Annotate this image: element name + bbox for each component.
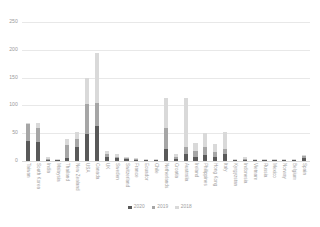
x-label-cell: Italy	[220, 163, 230, 205]
bar-segment-2020	[272, 160, 276, 161]
bar-segment-2018	[85, 78, 89, 105]
x-axis-label: Malaysia	[55, 163, 60, 182]
x-axis-label: Kyrgyzstan	[233, 163, 238, 186]
bar-segment-2020	[233, 160, 237, 161]
x-label-cell: Chile	[151, 163, 161, 205]
bar-segment-2019	[36, 128, 40, 142]
bar-column	[279, 22, 289, 161]
legend-label: 2019	[157, 205, 168, 210]
bar-segment-2020	[302, 158, 306, 161]
bar-stack	[184, 98, 188, 161]
legend-label: 2018	[181, 205, 192, 210]
x-label-cell: Ecuador	[141, 163, 151, 205]
stacked-column-chart: 050100150200250 TaiwanSouth KoreaIndiaMa…	[0, 0, 320, 227]
x-axis-label: Spain	[302, 163, 307, 175]
bar-column	[220, 22, 230, 161]
bar-segment-2019	[26, 124, 30, 141]
bar-stack	[144, 159, 148, 161]
bar-stack	[262, 159, 266, 161]
bar-segment-2020	[55, 160, 59, 161]
chart-legend: 202020192018	[0, 205, 320, 210]
x-label-cell: Australia	[181, 163, 191, 205]
x-axis-label: Ireland	[193, 163, 198, 177]
x-label-cell: Indonesia	[240, 163, 250, 205]
x-axis-label: Sweden	[114, 163, 119, 180]
x-axis-label: Mexico	[272, 163, 277, 178]
bar-segment-2018	[184, 98, 188, 147]
x-label-cell: UK	[102, 163, 112, 205]
bar-column	[82, 22, 92, 161]
legend-swatch-icon	[128, 206, 131, 209]
bar-stack	[75, 132, 79, 161]
x-label-cell: Vietnam	[250, 163, 260, 205]
y-tick-label-50: 50	[0, 131, 18, 136]
bar-stack	[26, 123, 30, 161]
bar-segment-2020	[203, 155, 207, 161]
bar-segment-2020	[282, 160, 286, 161]
bar-segment-2019	[164, 128, 168, 149]
bar-column	[299, 22, 309, 161]
x-label-cell: Hong Kong	[210, 163, 220, 205]
x-label-cell: Thailand	[62, 163, 72, 205]
x-label-cell: USA	[82, 163, 92, 205]
bar-stack	[243, 157, 247, 161]
bar-segment-2020	[223, 154, 227, 161]
bar-segment-2020	[115, 158, 119, 161]
bar-segment-2020	[85, 134, 89, 161]
bar-segment-2020	[193, 157, 197, 161]
x-axis-label: Canada	[95, 163, 100, 179]
bar-segment-2018	[164, 98, 168, 127]
bar-stack	[292, 159, 296, 161]
bar-segment-2018	[95, 53, 99, 103]
bar-segment-2020	[95, 126, 99, 161]
legend-swatch-icon	[152, 206, 155, 209]
bar-segment-2020	[65, 158, 69, 161]
bar-stack	[55, 159, 59, 161]
x-axis-label: Indonesia	[243, 163, 248, 183]
x-axis-label: Russia	[262, 163, 267, 177]
bar-segment-2020	[124, 159, 128, 161]
bar-column	[33, 22, 43, 161]
x-axis-label: Ecuador	[144, 163, 149, 180]
bar-segment-2020	[75, 147, 79, 161]
bar-stack	[115, 154, 119, 161]
bar-segment-2020	[154, 160, 158, 161]
bar-column	[112, 22, 122, 161]
x-axis-label: Croatia	[174, 163, 179, 178]
x-label-cell: South Korea	[33, 163, 43, 205]
bar-segment-2020	[105, 157, 109, 161]
x-label-cell: Russia	[260, 163, 270, 205]
bar-stack	[36, 123, 40, 161]
bar-column	[141, 22, 151, 161]
x-axis-label: Philippines	[203, 163, 208, 186]
bar-column	[230, 22, 240, 161]
bar-column	[161, 22, 171, 161]
x-label-cell: Spain	[299, 163, 309, 205]
bar-segment-2018	[193, 143, 197, 151]
legend-item-2018[interactable]: 2018	[175, 205, 191, 210]
bar-column	[269, 22, 279, 161]
x-axis-label: Taiwan	[26, 163, 31, 178]
x-label-cell: Belgium	[289, 163, 299, 205]
x-label-cell: New Zealand	[72, 163, 82, 205]
bar-column	[92, 22, 102, 161]
bar-segment-2020	[144, 160, 148, 161]
x-axis-category-labels: TaiwanSouth KoreaIndiaMalaysiaThailandNe…	[22, 163, 310, 205]
legend-item-2020[interactable]: 2020	[128, 205, 144, 210]
bar-column	[171, 22, 181, 161]
x-label-cell: Croatia	[171, 163, 181, 205]
bar-segment-2020	[243, 160, 247, 161]
bar-column	[240, 22, 250, 161]
bar-stack	[95, 53, 99, 161]
bar-segment-2020	[253, 160, 257, 161]
bar-column	[102, 22, 112, 161]
bar-column	[181, 22, 191, 161]
bar-stack	[223, 132, 227, 161]
bar-stack	[85, 78, 89, 161]
x-label-cell: Sweden	[112, 163, 122, 205]
x-label-cell: France	[131, 163, 141, 205]
x-axis-label: Netherlands	[164, 163, 169, 188]
legend-item-2019[interactable]: 2019	[152, 205, 168, 210]
bar-segment-2019	[85, 104, 89, 134]
x-label-cell: Philippines	[200, 163, 210, 205]
